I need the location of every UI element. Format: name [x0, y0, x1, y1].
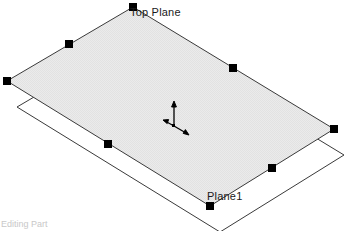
plane1-label[interactable]: Plane1	[207, 190, 242, 202]
handle-mid-upper-left[interactable]	[65, 40, 73, 48]
handle-mid-lower-right[interactable]	[268, 164, 276, 172]
handle-mid-lower-left[interactable]	[104, 140, 112, 148]
handle-corner-left[interactable]	[3, 77, 11, 85]
triad-origin-point	[172, 124, 175, 127]
cad-viewport[interactable]: Top Plane Plane1 Editing Part	[0, 0, 348, 231]
handle-mid-upper-right[interactable]	[229, 64, 237, 72]
status-bar-text: Editing Part	[1, 219, 48, 230]
handle-corner-right[interactable]	[330, 125, 338, 133]
top-plane-label[interactable]: Top Plane	[130, 6, 181, 18]
handle-corner-bottom[interactable]	[206, 202, 214, 210]
top-plane-face[interactable]	[7, 7, 334, 206]
cad-drawing-canvas[interactable]	[0, 0, 348, 231]
